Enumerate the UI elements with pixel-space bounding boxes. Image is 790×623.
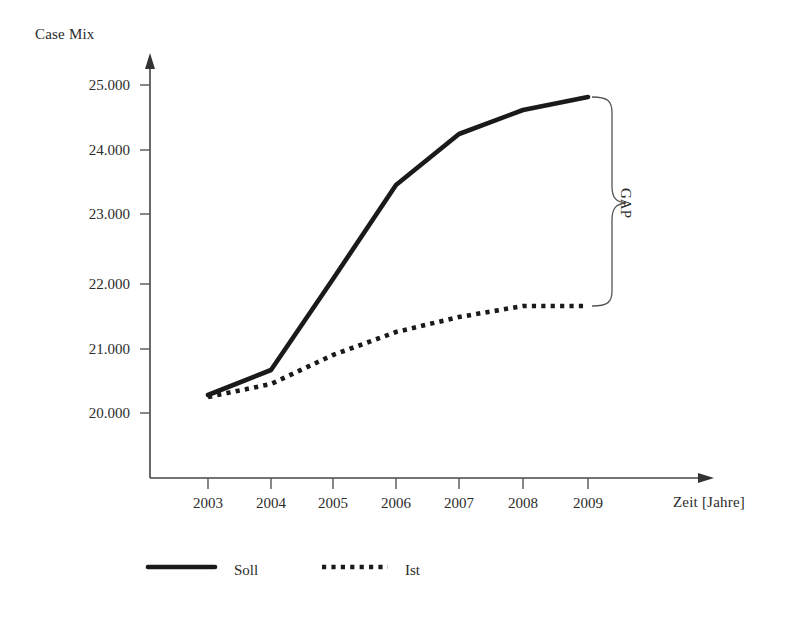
legend-label-ist: Ist (405, 562, 420, 579)
x-tick-label-2004: 2004 (243, 495, 299, 512)
x-tick-label-2003: 2003 (180, 495, 236, 512)
y-tick-label-24000: 24.000 (58, 142, 130, 159)
x-tick-label-2007: 2007 (431, 495, 487, 512)
y-tick-label-22000: 22.000 (58, 276, 130, 293)
chart-canvas: Case Mix Zeit [Jahre] 25.000 24.000 23.0… (0, 0, 790, 623)
x-axis (150, 473, 714, 489)
series-line-soll (208, 97, 588, 395)
series-line-ist (208, 306, 588, 397)
x-tick-label-2005: 2005 (305, 495, 361, 512)
y-axis-title: Case Mix (35, 26, 95, 43)
x-tick-label-2009: 2009 (560, 495, 616, 512)
y-axis-arrow-icon (145, 53, 155, 69)
gap-annotation-label: GAP (617, 188, 634, 218)
x-tick-label-2008: 2008 (495, 495, 551, 512)
y-axis (140, 53, 155, 478)
x-tick-label-2006: 2006 (368, 495, 424, 512)
y-tick-label-21000: 21.000 (58, 341, 130, 358)
legend-label-soll: Soll (234, 562, 258, 579)
x-axis-title: Zeit [Jahre] (673, 494, 745, 511)
y-tick-label-23000: 23.000 (58, 206, 130, 223)
y-tick-label-20000: 20.000 (58, 405, 130, 422)
y-tick-label-25000: 25.000 (58, 77, 130, 94)
x-axis-arrow-icon (698, 473, 714, 483)
